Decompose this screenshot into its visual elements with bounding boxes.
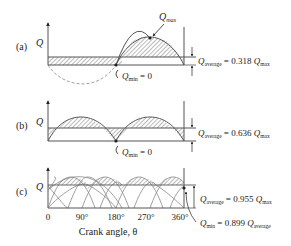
x-axis-label: Crank angle, θ	[79, 226, 138, 237]
panel-b-excess-area-1	[59, 117, 103, 128]
x-tick-0: 0	[46, 212, 51, 222]
panel-a-y-axis-label: Q	[36, 37, 44, 48]
panel-b-excess-area-2	[128, 117, 172, 128]
panel-b-deficit-area-2	[103, 128, 128, 141]
panel-c-average-label: Qaverage = 0.955 Qmax	[200, 194, 272, 205]
panel-a: (a) Q Qmax Qmin = 0 Qaverage = 0.318 Qm	[16, 11, 270, 84]
panel-b-deficit-area-3	[172, 128, 184, 141]
panel-c-label: (c)	[16, 186, 27, 198]
panel-a-label: (a)	[16, 41, 27, 53]
panel-b-deficit-area-1	[48, 128, 59, 141]
panel-b-average-label: Qaverage = 0.636 Qmax	[198, 128, 270, 139]
panel-c-min-label: Qmin = 0.899 Qaverage	[200, 218, 271, 229]
panel-c-min-dot	[182, 186, 185, 189]
panel-a-min-label: Qmin = 0	[122, 71, 152, 82]
panel-c: (c) Q	[16, 168, 272, 237]
panel-b-min-dot	[114, 139, 117, 142]
x-tick-360: 360°	[171, 212, 189, 222]
panel-b-min-label: Qmin = 0	[122, 147, 152, 158]
panel-b-min-pointer	[116, 146, 118, 154]
panel-a-max-label: Qmax	[159, 11, 177, 23]
panel-b: (b) Q Qmin = 0 Qaverage = 0.636 Qmax	[16, 101, 270, 158]
panel-a-deficit-area	[48, 57, 122, 65]
panel-c-y-axis-label: Q	[36, 181, 44, 192]
x-tick-270: 270°	[137, 212, 155, 222]
flow-pulsation-diagram: (a) Q Qmax Qmin = 0 Qaverage = 0.318 Qm	[0, 0, 291, 246]
panel-a-min-pointer	[116, 70, 118, 78]
panel-b-y-axis-label: Q	[36, 116, 44, 127]
panel-b-label: (b)	[16, 120, 28, 132]
panel-a-max-dot	[148, 36, 151, 39]
x-tick-180: 180°	[107, 212, 125, 222]
panel-a-average-label: Qaverage = 0.318 Qmax	[198, 56, 270, 67]
panel-c-excess-4	[156, 177, 184, 185]
panel-a-min-dot	[114, 63, 117, 66]
x-tick-90: 90°	[76, 212, 89, 222]
panel-a-dashed-curve	[48, 65, 116, 84]
panel-a-max-arrow	[153, 24, 164, 36]
